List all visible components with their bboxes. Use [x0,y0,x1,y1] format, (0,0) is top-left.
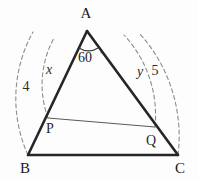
vertex-label-c: C [175,160,185,176]
length-label-aq: y [135,64,144,79]
length-label-ab: 4 [23,79,30,94]
geometry-canvas: A B C P Q 60 ◦ x 4 y 5 [0,0,198,180]
vertex-label-a: A [81,5,92,21]
point-label-p: P [46,121,54,136]
geometry-figure: A B C P Q 60 ◦ x 4 y 5 [0,0,198,180]
degree-symbol-icon: ◦ [100,48,103,57]
length-label-ap: x [45,62,53,77]
segment-pq [48,118,155,127]
length-label-ac: 5 [152,63,159,78]
apex-angle-value: 60 [78,50,92,65]
vertex-label-b: B [20,160,30,176]
arc-a-to-q [124,35,156,127]
point-label-q: Q [146,133,156,148]
